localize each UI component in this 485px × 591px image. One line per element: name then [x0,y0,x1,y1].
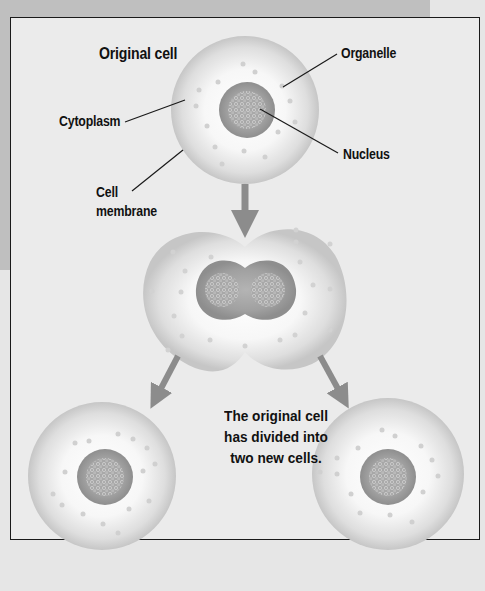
label-cell-membrane-line1: Cell [96,183,118,202]
caption: The original cell has divided into two n… [206,405,347,468]
caption-line-2: has divided into [206,426,347,447]
cell-division-diagram [0,0,485,591]
leader-cell-membrane [132,150,183,191]
chromatin [228,91,266,129]
chromatin-left [205,273,239,307]
caption-line-3: two new cells. [206,447,347,468]
title-original-cell: Original cell [99,44,177,63]
caption-line-1: The original cell [206,405,347,426]
label-organelle: Organelle [341,44,396,63]
arrow-down-left-icon [156,356,178,398]
label-cytoplasm: Cytoplasm [59,112,120,131]
daughter-cell-left [28,402,176,550]
chromatin [86,458,124,496]
arrow-down-right-icon [320,356,343,398]
label-cell-membrane-line2: membrane [96,202,157,221]
chromatin [369,458,407,496]
label-nucleus: Nucleus [343,145,390,164]
original-cell [171,36,319,184]
chromatin-right [251,273,285,307]
dividing-cell [143,228,346,372]
